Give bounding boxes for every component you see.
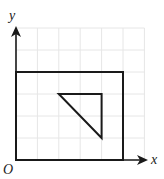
- coordinate-diagram: x y O: [0, 0, 164, 179]
- x-axis-label: x: [150, 152, 158, 167]
- origin-label: O: [3, 162, 13, 177]
- y-axis-label: y: [7, 8, 16, 23]
- axes: [11, 26, 148, 165]
